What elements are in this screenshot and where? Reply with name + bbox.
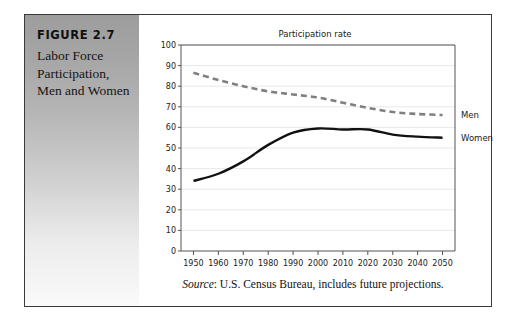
- line-chart: 0102030405060708090100 19501960197019801…: [139, 15, 493, 285]
- figure-caption-panel: FIGURE 2.7 Labor Force Participation, Me…: [25, 15, 139, 306]
- figure-number: FIGURE 2.7: [37, 28, 139, 42]
- chart-area: Participation rate 010203040506070809010…: [139, 15, 491, 306]
- source-text: : U.S. Census Bureau, includes future pr…: [214, 278, 444, 290]
- svg-text:2030: 2030: [383, 259, 403, 268]
- svg-text:20: 20: [166, 206, 176, 215]
- svg-text:2010: 2010: [333, 259, 353, 268]
- figure-caption: Labor Force Participation, Men and Women: [37, 47, 133, 100]
- series-labels: MenWomen: [461, 110, 493, 143]
- figure-frame: FIGURE 2.7 Labor Force Participation, Me…: [24, 14, 492, 307]
- svg-text:0: 0: [171, 247, 176, 256]
- svg-text:2020: 2020: [358, 259, 378, 268]
- svg-text:2000: 2000: [308, 259, 328, 268]
- source-label: Source: [182, 278, 214, 290]
- svg-text:1960: 1960: [208, 259, 228, 268]
- svg-text:100: 100: [161, 41, 176, 50]
- svg-text:1950: 1950: [183, 259, 203, 268]
- svg-text:70: 70: [166, 103, 176, 112]
- svg-text:60: 60: [166, 123, 176, 132]
- y-axis-tick-labels: 0102030405060708090100: [161, 41, 181, 256]
- svg-text:10: 10: [166, 226, 176, 235]
- svg-text:Women: Women: [461, 133, 493, 143]
- svg-text:2050: 2050: [432, 259, 452, 268]
- x-axis-ticks: [193, 251, 442, 255]
- svg-text:Men: Men: [461, 110, 479, 120]
- svg-text:40: 40: [166, 165, 176, 174]
- data-series: [193, 73, 442, 181]
- x-axis-tick-labels: 1950196019701980199020002010202020302040…: [183, 259, 452, 268]
- svg-text:80: 80: [166, 82, 176, 91]
- svg-text:2040: 2040: [407, 259, 427, 268]
- svg-text:1990: 1990: [283, 259, 303, 268]
- svg-text:1970: 1970: [233, 259, 253, 268]
- svg-text:30: 30: [166, 185, 176, 194]
- gridlines: [181, 45, 455, 230]
- svg-text:1980: 1980: [258, 259, 278, 268]
- source-note: Source: U.S. Census Bureau, includes fut…: [139, 278, 487, 290]
- svg-text:90: 90: [166, 62, 176, 71]
- svg-text:50: 50: [166, 144, 176, 153]
